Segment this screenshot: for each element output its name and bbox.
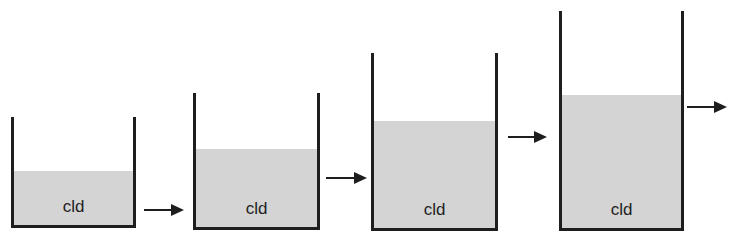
container-1-label: cld bbox=[63, 197, 85, 217]
container-2-fill: cld bbox=[196, 149, 317, 227]
container-2: cld bbox=[193, 93, 320, 230]
container-3-label: cld bbox=[424, 200, 446, 220]
arrow-right-icon bbox=[144, 204, 184, 216]
container-2-label: cld bbox=[246, 199, 268, 219]
arrow-right-icon bbox=[326, 172, 367, 184]
container-3-fill: cld bbox=[374, 121, 495, 228]
arrow-right-icon bbox=[508, 131, 547, 143]
container-1: cld bbox=[11, 117, 136, 228]
container-4-fill: cld bbox=[562, 95, 681, 228]
container-3: cld bbox=[371, 53, 498, 231]
container-4-label: cld bbox=[611, 200, 633, 220]
container-4: cld bbox=[559, 11, 684, 231]
arrow-right-icon bbox=[687, 101, 727, 113]
container-1-fill: cld bbox=[14, 171, 133, 225]
